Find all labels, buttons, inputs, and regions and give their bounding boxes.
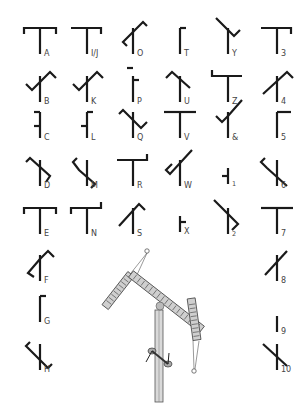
semaphore-glyph-q: Q bbox=[119, 110, 147, 142]
glyph-label: G bbox=[44, 317, 50, 326]
glyph-label: 3 bbox=[281, 49, 286, 58]
semaphore-glyph-o: O bbox=[123, 22, 147, 58]
glyph-label: X bbox=[184, 227, 190, 236]
glyph-label: Y bbox=[231, 49, 237, 58]
glyph-label: 4 bbox=[281, 97, 286, 106]
semaphore-glyph-d: D bbox=[26, 158, 50, 190]
signal-arm bbox=[123, 32, 133, 46]
glyph-label: E bbox=[44, 229, 49, 238]
glyph-label: B bbox=[44, 97, 50, 106]
glyph-label: 8 bbox=[281, 276, 286, 285]
semaphore-glyph-g: G bbox=[40, 296, 50, 326]
semaphore-alphabet-chart: AI/JOTY3BKPUZ4CLQV&5DMRW16ENSX27F8G9H10 bbox=[0, 0, 306, 403]
glyph-label: 1 bbox=[232, 180, 236, 188]
signal-arm bbox=[263, 344, 287, 366]
semaphore-glyph-e: E bbox=[24, 208, 56, 238]
glyph-label: C bbox=[44, 133, 50, 142]
semaphore-glyph-l: L bbox=[81, 112, 96, 142]
glyph-label: N bbox=[91, 229, 97, 238]
glyph-label: D bbox=[44, 181, 50, 190]
glyph-label: & bbox=[232, 133, 238, 142]
glyph-label: Q bbox=[137, 133, 143, 142]
semaphore-glyph-u: U bbox=[166, 72, 190, 106]
glyph-label: F bbox=[44, 276, 49, 285]
signal-arm bbox=[87, 72, 103, 82]
glyph-label: 9 bbox=[281, 327, 286, 336]
semaphore-glyph-f: F bbox=[28, 251, 54, 285]
glyph-label: L bbox=[91, 133, 96, 142]
signal-arm bbox=[40, 251, 54, 259]
semaphore-glyph-h: H bbox=[26, 342, 52, 374]
glyph-label: 7 bbox=[281, 229, 286, 238]
semaphore-glyph-6: 6 bbox=[261, 158, 287, 190]
glyph-label: R bbox=[137, 181, 143, 190]
glyph-label: U bbox=[184, 97, 190, 106]
semaphore-glyph-3: 3 bbox=[261, 28, 291, 58]
semaphore-glyph-x: X bbox=[180, 216, 190, 236]
glyph-label: M bbox=[91, 181, 98, 190]
semaphore-glyph-n: N bbox=[71, 202, 101, 238]
semaphore-glyph-9: 9 bbox=[277, 316, 286, 336]
signal-arm bbox=[212, 70, 242, 76]
semaphore-glyph-c: C bbox=[34, 112, 50, 142]
signal-arm bbox=[166, 72, 190, 88]
semaphore-glyph-4: 4 bbox=[263, 72, 293, 106]
glyph-label: S bbox=[137, 229, 142, 238]
semaphore-glyph-ij: I/J bbox=[71, 28, 101, 58]
semaphore-glyph-w: W bbox=[166, 150, 192, 190]
semaphore-glyph-s: S bbox=[119, 204, 145, 238]
glyph-label: 6 bbox=[281, 181, 286, 190]
semaphore-glyph-7: 7 bbox=[261, 208, 293, 238]
semaphore-glyph-k: K bbox=[73, 72, 103, 106]
semaphore-glyph-8: 8 bbox=[265, 251, 287, 285]
semaphore-glyph-y: Y bbox=[216, 18, 240, 58]
semaphore-glyph-a: A bbox=[24, 28, 56, 58]
semaphore-glyph-b: B bbox=[26, 72, 56, 106]
semaphore-tower-illustration bbox=[102, 249, 204, 402]
semaphore-glyph-10: 10 bbox=[263, 344, 291, 374]
semaphore-glyph-t: T bbox=[180, 28, 189, 58]
signal-arm bbox=[133, 22, 147, 32]
semaphore-glyph-5: 5 bbox=[277, 112, 291, 142]
glyph-label: K bbox=[91, 97, 97, 106]
semaphore-glyph-p: P bbox=[127, 68, 142, 106]
signal-arm bbox=[26, 82, 40, 90]
semaphore-glyph-: & bbox=[216, 100, 242, 142]
signal-arm bbox=[28, 259, 40, 277]
semaphore-glyph-m: M bbox=[73, 158, 98, 190]
glyph-label: 10 bbox=[281, 365, 291, 374]
glyph-label: 5 bbox=[281, 133, 286, 142]
glyph-label: P bbox=[137, 97, 142, 106]
glyph-label: T bbox=[183, 49, 189, 58]
glyph-label: W bbox=[184, 181, 192, 190]
semaphore-glyph-2: 2 bbox=[214, 200, 238, 238]
semaphore-glyph-r: R bbox=[117, 154, 147, 190]
semaphore-glyph-v: V bbox=[164, 112, 196, 142]
signal-arm bbox=[214, 200, 238, 230]
glyph-label: 2 bbox=[232, 230, 236, 238]
glyph-label: V bbox=[184, 133, 190, 142]
glyph-label: I/J bbox=[91, 49, 98, 58]
glyph-label: O bbox=[137, 49, 143, 58]
semaphore-glyph-1: 1 bbox=[222, 168, 236, 188]
signal-arm bbox=[117, 154, 147, 160]
signal-arm bbox=[40, 72, 56, 82]
signal-arm bbox=[73, 82, 87, 90]
semaphore-glyph-z: Z bbox=[212, 70, 242, 106]
glyph-label: H bbox=[44, 365, 50, 374]
glyph-label: A bbox=[44, 49, 50, 58]
signal-arm bbox=[26, 158, 50, 182]
